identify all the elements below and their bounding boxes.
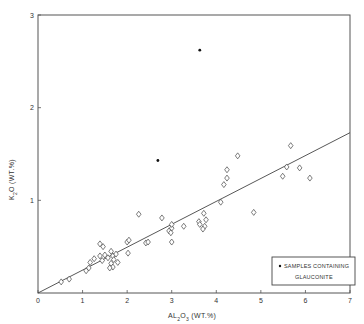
diamond-marker	[235, 153, 240, 159]
diamond-marker	[288, 143, 293, 149]
y-tick-label: 2	[30, 104, 34, 111]
y-tick-label: 1	[30, 197, 34, 204]
diamond-marker	[251, 209, 256, 215]
x-tick-label: 0	[36, 297, 40, 304]
plot-border	[38, 15, 350, 293]
legend: SAMPLES CONTAINING GLAUCONITE	[272, 257, 355, 285]
legend-line1: SAMPLES CONTAINING	[284, 263, 349, 269]
diamond-marker	[92, 256, 97, 262]
x-tick-label: 6	[303, 297, 307, 304]
diamond-marker	[225, 167, 230, 173]
diamond-marker	[160, 215, 165, 221]
glauconite-dot-marker	[156, 159, 159, 162]
data-points	[59, 49, 312, 285]
plot-frame	[38, 15, 350, 293]
glauconite-dot-marker	[198, 49, 201, 52]
diamond-marker	[202, 210, 207, 216]
legend-line2: GLAUCONITE	[295, 274, 333, 280]
diamond-marker	[169, 221, 174, 227]
x-axis-label: AL2O3 (WT.%)	[168, 312, 216, 322]
x-tick-label: 4	[214, 297, 218, 304]
diamond-marker	[308, 175, 313, 181]
scatter-chart: 01234567123 SAMPLES CONTAINING GLAUCONIT…	[0, 0, 364, 324]
diamond-marker	[126, 250, 131, 256]
legend-dot-marker	[279, 265, 281, 267]
diamond-marker	[115, 259, 120, 265]
x-tick-label: 2	[125, 297, 129, 304]
diamond-marker	[297, 165, 302, 171]
x-tick-label: 7	[348, 297, 352, 304]
y-axis-label: K2O (WT.%)	[8, 159, 18, 200]
diamond-marker	[222, 182, 227, 188]
diamond-marker	[181, 223, 186, 229]
diamond-marker	[280, 173, 285, 179]
diamond-marker	[88, 259, 93, 265]
legend-box	[272, 257, 355, 285]
diamond-marker	[204, 217, 209, 223]
x-tick-label: 5	[259, 297, 263, 304]
x-tick-label: 3	[170, 297, 174, 304]
diamond-marker	[169, 239, 174, 245]
y-tick-label: 3	[30, 12, 34, 19]
x-tick-label: 1	[81, 297, 85, 304]
diamond-marker	[136, 211, 141, 217]
diamond-marker	[67, 276, 72, 282]
diamond-marker	[225, 175, 230, 181]
